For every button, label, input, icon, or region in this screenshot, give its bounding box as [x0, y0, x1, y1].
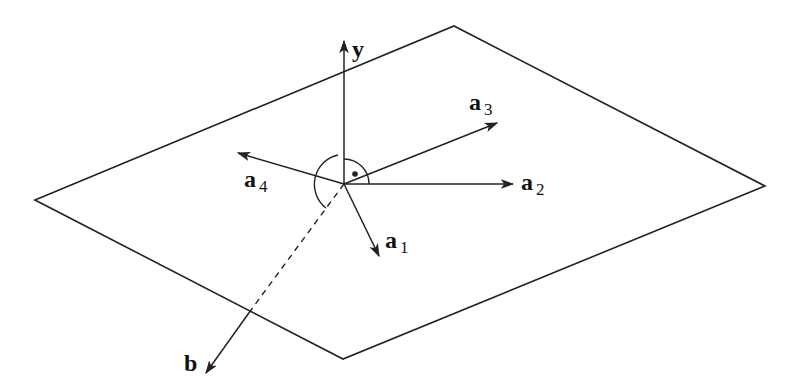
- vector-a1: [344, 184, 379, 256]
- right-angle-dot: [352, 171, 358, 177]
- label-a1: a1: [385, 227, 409, 257]
- vector-b-hidden: [251, 184, 344, 310]
- diagram-canvas: y a3 a2 a4 a1 b: [0, 0, 789, 391]
- label-a2: a2: [521, 169, 545, 199]
- vector-b: [206, 310, 251, 373]
- label-b: b: [184, 350, 197, 376]
- vector-diagram: y a3 a2 a4 a1 b: [0, 0, 789, 391]
- label-y: y: [352, 36, 364, 62]
- plane: [35, 26, 765, 359]
- right-angle-arc: [344, 159, 369, 184]
- label-a4: a4: [244, 166, 268, 196]
- label-a3: a3: [469, 89, 493, 119]
